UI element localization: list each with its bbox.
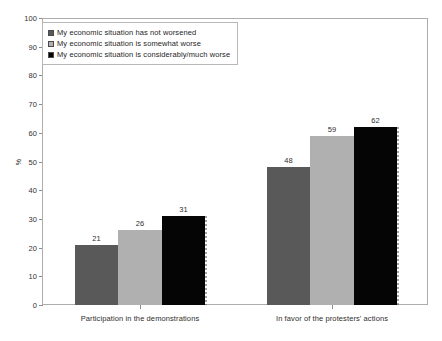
y-axis-tick-label: 10 [4, 272, 42, 281]
y-axis-tick-label: 20 [4, 243, 42, 252]
bar-value-label: 59 [310, 125, 354, 134]
y-axis: 1009080706050403020100 [0, 0, 42, 341]
legend-item-label: My economic situation is somewhat worse [57, 39, 201, 48]
y-axis-tick-label: 90 [4, 42, 42, 51]
legend-item[interactable]: My economic situation is somewhat worse [48, 38, 230, 49]
bar [354, 127, 398, 305]
legend-item[interactable]: My economic situation is considerably/mu… [48, 49, 230, 60]
legend-item-label: My economic situation has not worsened [57, 28, 196, 37]
bar-value-label: 62 [354, 116, 398, 125]
bar-value-label: 48 [267, 156, 311, 165]
legend-item-label: My economic situation is considerably/mu… [57, 50, 230, 59]
y-axis-tick-label: 50 [4, 157, 42, 166]
y-axis-tick-label: 60 [4, 128, 42, 137]
bar [267, 167, 311, 305]
light-gray-swatch-icon [48, 41, 54, 47]
chart-legend: My economic situation has not worsened M… [42, 22, 238, 65]
y-axis-tick-label: 100 [4, 14, 42, 23]
bar-value-label: 26 [118, 219, 162, 228]
bar-value-label: 21 [75, 234, 119, 243]
black-swatch-icon [48, 52, 54, 58]
y-axis-tick-mark [39, 305, 43, 306]
x-axis-tick-mark [140, 305, 141, 309]
bar-chart: % 1009080706050403020100 212631485962 My… [0, 0, 442, 341]
y-axis-tick-label: 40 [4, 186, 42, 195]
bar-value-label: 31 [162, 205, 206, 214]
y-axis-tick-label: 30 [4, 214, 42, 223]
x-axis-tick-mark [332, 305, 333, 309]
bar [118, 230, 162, 305]
x-axis-category-label: Participation in the demonstrations [40, 314, 240, 323]
y-axis-tick-label: 70 [4, 100, 42, 109]
y-axis-tick-label: 80 [4, 71, 42, 80]
bar [162, 216, 206, 305]
bar [310, 136, 354, 305]
dark-gray-swatch-icon [48, 30, 54, 36]
x-axis-category-label: In favor of the protesters' actions [232, 314, 432, 323]
bar [75, 245, 119, 305]
y-axis-tick-label: 0 [4, 301, 42, 310]
legend-item[interactable]: My economic situation has not worsened [48, 27, 230, 38]
